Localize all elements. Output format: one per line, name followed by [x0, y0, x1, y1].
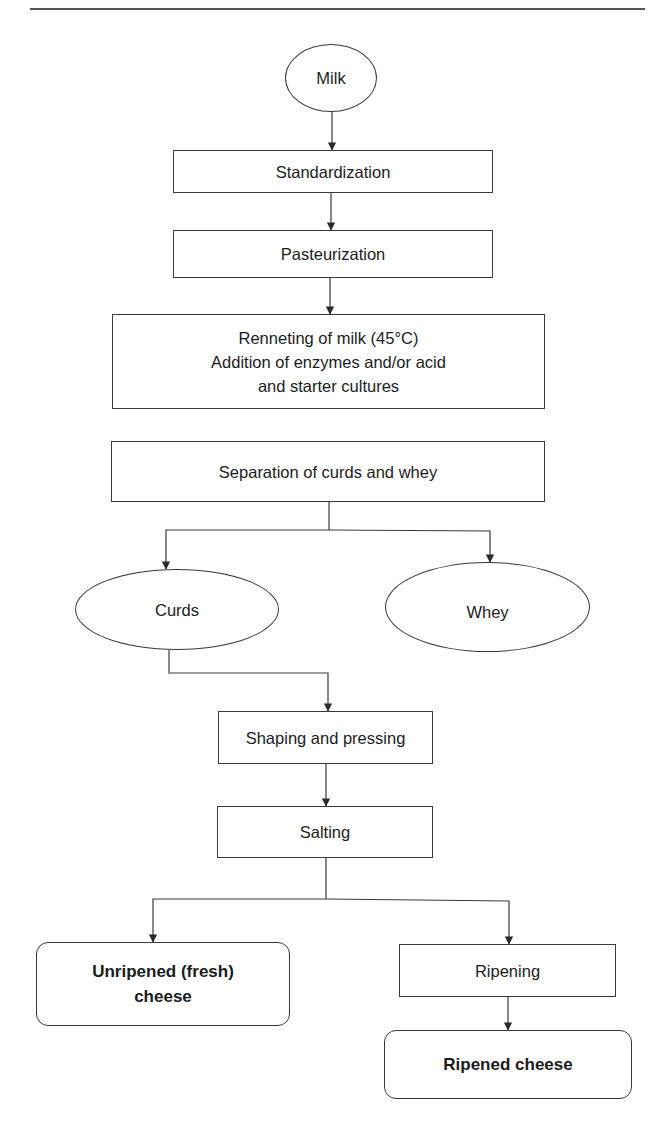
arrow-separation-curds — [166, 530, 329, 569]
arrow-curds-shaping — [169, 650, 328, 711]
node-ripened-cheese: Ripened cheese — [384, 1030, 632, 1099]
arrow-salting-unripened — [153, 899, 326, 942]
node-renneting-line-1: Renneting of milk (45°C) — [239, 326, 419, 350]
arrow-salting-ripening — [326, 899, 509, 944]
node-salting: Salting — [217, 806, 433, 858]
node-pasteurization: Pasteurization — [173, 230, 493, 278]
node-standardization-label: Standardization — [276, 160, 391, 184]
node-separation: Separation of curds and whey — [111, 441, 545, 502]
node-whey-label: Whey — [466, 600, 508, 624]
node-unripened-line-2: cheese — [134, 984, 192, 1009]
node-pasteurization-label: Pasteurization — [281, 242, 386, 266]
clipped-caption — [25, 1124, 445, 1130]
node-ripening-label: Ripening — [475, 959, 540, 983]
node-standardization: Standardization — [173, 150, 493, 193]
node-unripened-line-1: Unripened (fresh) — [92, 959, 234, 984]
node-whey: Whey — [385, 562, 590, 652]
node-milk-label: Milk — [316, 66, 345, 90]
node-shaping-label: Shaping and pressing — [246, 726, 406, 750]
node-curds: Curds — [75, 569, 279, 650]
arrow-separation-whey — [329, 530, 490, 562]
node-curds-label: Curds — [155, 598, 199, 622]
node-separation-label: Separation of curds and whey — [219, 460, 437, 484]
node-milk: Milk — [285, 44, 377, 112]
node-shaping: Shaping and pressing — [218, 711, 433, 764]
node-ripened-label: Ripened cheese — [443, 1052, 572, 1077]
node-renneting: Renneting of milk (45°C) Addition of enz… — [112, 314, 545, 409]
node-ripening: Ripening — [399, 944, 616, 997]
node-renneting-line-2: Addition of enzymes and/or acid — [211, 350, 446, 374]
node-unripened-cheese: Unripened (fresh) cheese — [36, 942, 290, 1026]
node-renneting-line-3: and starter cultures — [258, 374, 399, 398]
node-salting-label: Salting — [300, 820, 350, 844]
